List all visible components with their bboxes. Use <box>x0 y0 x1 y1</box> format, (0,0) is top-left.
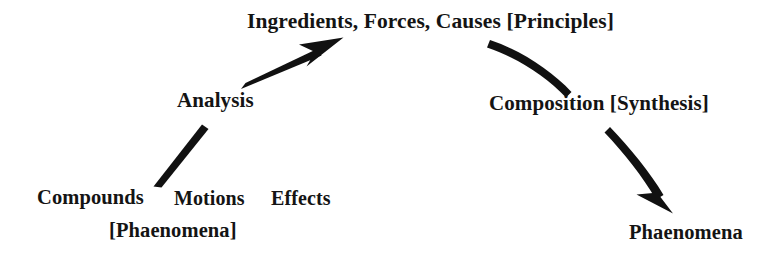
node-analysis: Analysis <box>177 90 254 111</box>
node-phaenomena-bracket: [Phaenomena] <box>109 220 237 241</box>
diagram-canvas: Ingredients, Forces, Causes [Principles]… <box>0 0 782 254</box>
connector-phaenomena-to-analysis <box>154 125 209 188</box>
node-motions: Motions <box>174 188 245 208</box>
connector-composition-to-phaenomena <box>605 127 674 214</box>
node-principles: Ingredients, Forces, Causes [Principles] <box>247 11 614 33</box>
node-phaenomena: Phaenomena <box>629 222 743 243</box>
connector-layer <box>0 0 782 254</box>
arrow-shaft-composition-to-phaenomena <box>605 127 664 200</box>
connector-principles-to-composition <box>487 40 572 98</box>
node-composition-synthesis: Composition [Synthesis] <box>489 93 709 114</box>
connector-analysis-to-principles <box>241 38 344 90</box>
arrow-shaft-analysis-to-principles <box>241 49 322 90</box>
arrow-head-analysis-to-principles <box>299 38 344 67</box>
node-compounds: Compounds <box>37 187 144 208</box>
arrow-head-composition-to-phaenomena <box>637 178 674 214</box>
node-effects: Effects <box>271 188 331 208</box>
